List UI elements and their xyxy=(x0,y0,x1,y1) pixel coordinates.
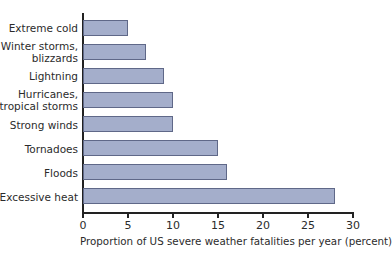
x-tick-label: 30 xyxy=(338,219,368,232)
bar-hurricanes xyxy=(83,92,173,108)
category-label-text: Lightning xyxy=(29,70,78,82)
category-label-winter-storms: Winter storms,blizzards xyxy=(1,40,78,64)
category-label-hurricanes: Hurricanes,tropical storms xyxy=(0,88,78,112)
x-tick-label: 0 xyxy=(68,219,98,232)
bar-floods xyxy=(83,164,227,180)
x-tick xyxy=(352,212,353,218)
category-label-text: Hurricanes, xyxy=(18,88,78,100)
x-tick-label: 25 xyxy=(293,219,323,232)
category-label-text: Strong winds xyxy=(10,119,78,131)
x-tick-label: 20 xyxy=(248,219,278,232)
bar-excessive-heat xyxy=(83,188,335,204)
bar-strong-winds xyxy=(83,116,173,132)
category-label-extreme-cold: Extreme cold xyxy=(9,22,78,34)
y-axis xyxy=(82,13,84,213)
category-label-lightning: Lightning xyxy=(29,70,78,82)
x-axis-title: Proportion of US severe weather fataliti… xyxy=(80,235,392,247)
x-tick xyxy=(172,212,173,218)
x-tick xyxy=(82,212,83,218)
x-tick xyxy=(307,212,308,218)
bar-extreme-cold xyxy=(83,20,128,36)
category-label-tornadoes: Tornadoes xyxy=(25,143,78,155)
bar-lightning xyxy=(83,68,164,84)
x-tick xyxy=(127,212,128,218)
category-label-text: tropical storms xyxy=(0,100,78,112)
category-label-text: blizzards xyxy=(32,52,78,64)
category-label-text: Tornadoes xyxy=(25,143,78,155)
bar-winter-storms xyxy=(83,44,146,60)
category-label-text: Winter storms, xyxy=(1,40,78,52)
category-label-text: Extreme cold xyxy=(9,22,78,34)
x-tick-label: 10 xyxy=(158,219,188,232)
x-tick xyxy=(262,212,263,218)
category-label-excessive-heat: Excessive heat xyxy=(0,191,78,203)
x-tick-label: 15 xyxy=(203,219,233,232)
category-label-text: Floods xyxy=(44,167,78,179)
x-tick-label: 5 xyxy=(113,219,143,232)
bar-tornadoes xyxy=(83,140,218,156)
category-label-strong-winds: Strong winds xyxy=(10,119,78,131)
x-tick xyxy=(217,212,218,218)
category-label-floods: Floods xyxy=(44,167,78,179)
category-label-text: Excessive heat xyxy=(0,191,78,203)
